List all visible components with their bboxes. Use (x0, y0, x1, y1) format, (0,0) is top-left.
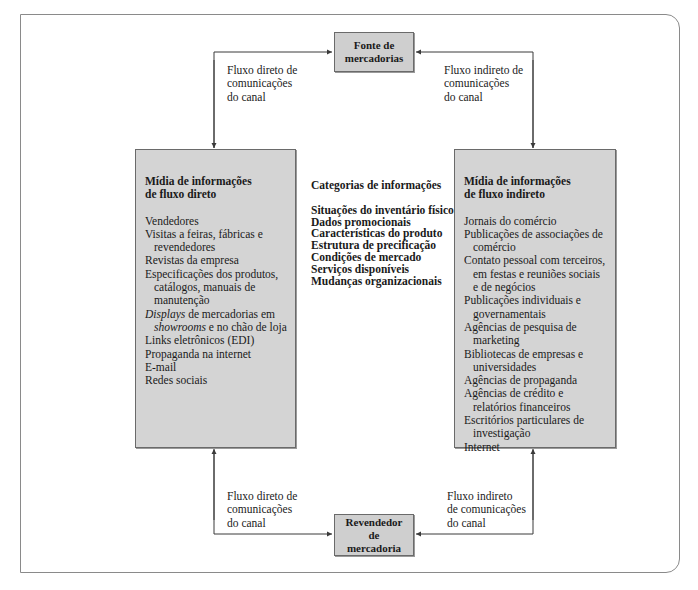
reseller-line3: mercadoria (346, 542, 403, 555)
flow-label-bottom-left: Fluxo direto de comunicações do canal (227, 490, 297, 530)
label-line: Fluxo indireto (447, 490, 526, 503)
flow-label-bottom-right: Fluxo indireto de comunicações do canal (447, 490, 526, 530)
source-line2: mercadorias (345, 52, 403, 65)
list-item: E-mail (145, 361, 287, 374)
direct-media-panel: Mídia de informações de fluxo direto Ven… (135, 149, 296, 448)
list-item: Visitas a feiras, fábricas e revendedore… (145, 228, 287, 255)
label-line: Fluxo direto de (227, 64, 297, 77)
label-line: do canal (227, 91, 297, 104)
categories-title: Categorias de informações (311, 180, 454, 192)
list-item: Bibliotecas de empresas e universidades (464, 348, 607, 375)
italic-text: showrooms (154, 321, 206, 333)
source-line1: Fonte de (345, 39, 403, 52)
list-item: Agências de crédito e relatórios finance… (464, 387, 607, 414)
list-item: Revistas da empresa (145, 254, 287, 267)
list-item: Publicações de associações de comércio (464, 228, 607, 255)
text: de mercadorias em (185, 308, 275, 320)
category-item: Serviços disponíveis (311, 264, 454, 276)
list-item: Displays de mercadorias em showrooms e n… (145, 308, 287, 335)
list-item: Contato pessoal com terceiros, em festas… (464, 254, 607, 294)
label-line: do canal (444, 91, 523, 104)
category-item: Mudanças organizacionais (311, 276, 454, 288)
list-item: Escritórios particulares de investigação (464, 414, 607, 441)
category-item: Condições de mercado (311, 252, 454, 264)
flow-label-top-right: Fluxo indireto de comunicações do canal (444, 64, 523, 104)
list-item: Links eletrônicos (EDI) (145, 334, 287, 347)
list-item: Jornais do comércio (464, 215, 607, 228)
reseller-line1: Revendedor (346, 516, 403, 529)
label-line: comunicações (444, 77, 523, 90)
title-line: de fluxo indireto (464, 188, 607, 201)
list-item: Especificações dos produtos, catálogos, … (145, 268, 287, 308)
indirect-media-title: Mídia de informações de fluxo indireto (464, 175, 607, 202)
title-line: de fluxo direto (145, 188, 287, 201)
list-item: Internet (464, 441, 607, 454)
reseller-node: Revendedor de mercadoria (334, 514, 414, 556)
label-line: do canal (227, 517, 297, 530)
label-line: do canal (447, 517, 526, 530)
list-item: Agências de propaganda (464, 374, 607, 387)
reseller-line2: de (346, 529, 403, 542)
label-line: comunicações (227, 77, 297, 90)
title-line: Mídia de informações (464, 175, 607, 188)
title-line: Mídia de informações (145, 175, 287, 188)
list-item: Redes sociais (145, 374, 287, 387)
list-item: Propaganda na internet (145, 348, 287, 361)
category-item: Situações do inventário físico (311, 205, 454, 217)
label-line: Fluxo direto de (227, 490, 297, 503)
list-item: Vendedores (145, 215, 287, 228)
label-line: de comunicações (447, 503, 526, 516)
indirect-media-panel: Mídia de informações de fluxo indireto J… (454, 149, 616, 448)
list-item: Agências de pesquisa de marketing (464, 321, 607, 348)
source-of-goods-node: Fonte de mercadorias (334, 32, 414, 72)
list-item: Publicações individuais e governamentais (464, 294, 607, 321)
italic-text: Displays (145, 308, 185, 320)
direct-media-title: Mídia de informações de fluxo direto (145, 175, 287, 202)
label-line: comunicações (227, 503, 297, 516)
text: e no chão de loja (206, 321, 287, 333)
label-line: Fluxo indireto de (444, 64, 523, 77)
flow-label-top-left: Fluxo direto de comunicações do canal (227, 64, 297, 104)
information-categories: Categorias de informações Situações do i… (311, 180, 454, 287)
